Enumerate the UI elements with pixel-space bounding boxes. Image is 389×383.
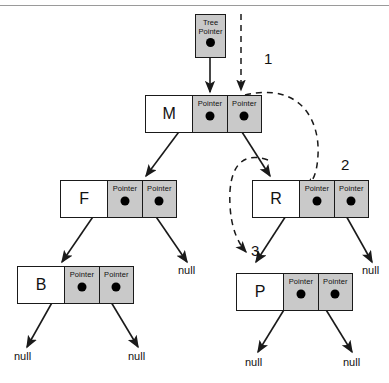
node-r-left-pointer: Pointer: [299, 181, 333, 217]
tree-pointer-label-line1: Tree: [203, 18, 218, 27]
tree-pointer-box: Tree Pointer: [195, 14, 226, 58]
node-p-left-pointer: Pointer: [283, 274, 317, 310]
node-m-left-pointer-dot-icon: [205, 111, 214, 120]
node-p-value: P: [237, 274, 283, 310]
null-label-f-right: null: [178, 264, 195, 276]
null-label-r-right: null: [362, 264, 379, 276]
node-r-right-pointer: Pointer: [334, 181, 368, 217]
node-m-right-pointer: Pointer: [227, 96, 261, 132]
node-b-left-pointer: Pointer: [64, 267, 98, 303]
node-r: R Pointer Pointer: [252, 180, 369, 218]
node-b-value: B: [18, 267, 64, 303]
node-r-right-pointer-label: Pointer: [339, 184, 363, 193]
node-m-right-pointer-label: Pointer: [232, 99, 256, 108]
null-label-p-left: null: [245, 356, 262, 368]
node-f-value: F: [61, 181, 107, 217]
node-f-right-pointer: Pointer: [142, 181, 176, 217]
node-r-right-pointer-dot-icon: [347, 196, 356, 205]
node-b-left-pointer-dot-icon: [77, 282, 86, 291]
node-m-left-pointer: Pointer: [192, 96, 226, 132]
node-r-value: R: [253, 181, 299, 217]
node-b-right-pointer: Pointer: [99, 267, 133, 303]
tree-pointer-dot-icon: [206, 38, 215, 47]
node-b-right-pointer-dot-icon: [112, 282, 121, 291]
node-p-right-pointer-label: Pointer: [323, 277, 347, 286]
node-f-right-pointer-dot-icon: [155, 196, 164, 205]
null-label-b-right: null: [128, 350, 145, 362]
node-f-left-pointer-dot-icon: [120, 196, 129, 205]
node-b-right-pointer-label: Pointer: [104, 270, 128, 279]
node-r-left-pointer-dot-icon: [312, 196, 321, 205]
tree-diagram: Tree Pointer M Pointer Pointer F Pointer…: [0, 0, 389, 383]
step-number-1: 1: [264, 50, 272, 67]
null-label-b-left: null: [14, 350, 31, 362]
node-m-left-pointer-label: Pointer: [198, 99, 222, 108]
step-number-2: 2: [341, 156, 349, 173]
node-p-left-pointer-label: Pointer: [289, 277, 313, 286]
node-b: B Pointer Pointer: [17, 266, 134, 304]
top-divider-rule: [0, 5, 389, 6]
node-f: F Pointer Pointer: [60, 180, 177, 218]
node-p: P Pointer Pointer: [236, 273, 353, 311]
node-p-right-pointer-dot-icon: [331, 289, 340, 298]
node-b-left-pointer-label: Pointer: [70, 270, 94, 279]
node-m-value: M: [146, 96, 192, 132]
node-m-right-pointer-dot-icon: [240, 111, 249, 120]
node-p-left-pointer-dot-icon: [296, 289, 305, 298]
node-f-left-pointer: Pointer: [107, 181, 141, 217]
node-f-left-pointer-label: Pointer: [113, 184, 137, 193]
node-r-left-pointer-label: Pointer: [305, 184, 329, 193]
tree-pointer-label-line2: Pointer: [199, 27, 223, 36]
null-label-p-right: null: [343, 356, 360, 368]
node-f-right-pointer-label: Pointer: [147, 184, 171, 193]
node-p-right-pointer: Pointer: [318, 274, 352, 310]
step-number-3: 3: [251, 242, 259, 259]
node-m: M Pointer Pointer: [145, 95, 262, 133]
